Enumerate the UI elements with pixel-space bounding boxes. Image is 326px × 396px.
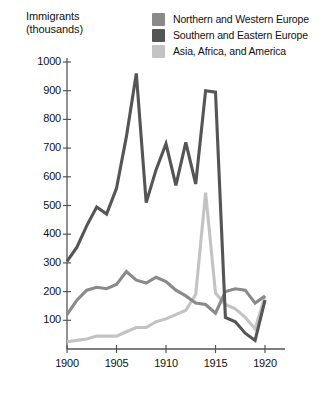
immigration-line-chart: Immigrants (thousands) Northern and West… xyxy=(0,0,326,396)
series-line-southern-and-eastern-europe xyxy=(67,73,265,340)
series-line-asia-africa-and-america xyxy=(67,193,265,342)
plot-area xyxy=(0,0,326,396)
series-lines xyxy=(67,73,265,341)
